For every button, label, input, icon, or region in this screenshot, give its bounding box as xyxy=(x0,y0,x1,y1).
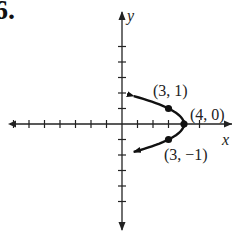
parabola-graph: y x (3, 1) (4, 0) (3, −1) xyxy=(0,0,234,233)
y-axis xyxy=(118,11,126,231)
point-marker xyxy=(165,136,172,143)
x-axis-right-arrow-icon xyxy=(224,121,232,128)
point-marker xyxy=(180,120,187,127)
x-axis-left-arrow-icon xyxy=(8,121,16,128)
y-axis-down-arrow-icon xyxy=(119,222,126,231)
point-marker xyxy=(165,105,172,112)
point-label-4-0: (4, 0) xyxy=(190,106,225,124)
x-axis-label: x xyxy=(221,131,229,148)
y-axis-up-arrow-icon xyxy=(119,11,126,20)
point-label-3-1: (3, 1) xyxy=(153,82,188,100)
y-axis-label: y xyxy=(125,7,135,25)
point-label-3-neg1: (3, −1) xyxy=(164,146,208,164)
